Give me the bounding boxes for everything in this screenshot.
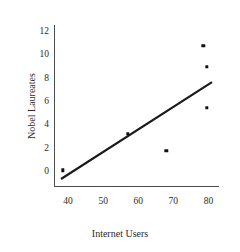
x-axis-spine	[54, 186, 219, 187]
data-point	[61, 169, 64, 172]
x-tick-label: 50	[98, 197, 108, 207]
x-tick-label: 80	[204, 197, 214, 207]
y-tick-label: 2	[44, 144, 49, 154]
x-tick-label: 40	[63, 197, 73, 207]
y-tick-label: 6	[44, 97, 49, 107]
data-point	[201, 44, 204, 47]
data-point	[165, 149, 168, 152]
y-tick-label: 10	[40, 51, 50, 61]
data-point	[205, 106, 208, 109]
y-axis-spine	[54, 25, 55, 187]
x-tick-label: 70	[169, 197, 179, 207]
y-tick-label: 0	[44, 167, 49, 177]
y-tick-label: 8	[44, 74, 49, 84]
x-tick-label: 60	[134, 197, 144, 207]
x-axis-title: Internet Users	[0, 228, 240, 239]
data-point	[126, 132, 129, 135]
scatter-plot-figure: 024681012 4050607080 Internet Users Nobe…	[0, 0, 240, 252]
y-axis-title: Nobel Laureates	[26, 25, 37, 187]
data-point	[205, 65, 208, 68]
y-tick-label: 4	[44, 121, 49, 131]
y-tick-label: 12	[40, 27, 50, 37]
